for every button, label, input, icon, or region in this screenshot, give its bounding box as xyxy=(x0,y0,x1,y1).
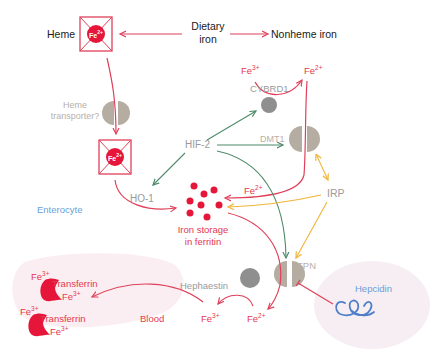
hephaestin-protein xyxy=(240,268,260,288)
fe2-bottom-label: Fe2+ xyxy=(247,313,266,324)
arrow-irp-to-fpn xyxy=(296,202,327,258)
heme-iron-label-inner: Fe2+ xyxy=(108,153,122,162)
transferrin1-fe3-a: Fe3+ xyxy=(31,271,50,282)
heme-label: Heme xyxy=(47,29,75,40)
fe3-top-label: Fe3+ xyxy=(241,65,260,76)
arrow-hif2-to-ho1 xyxy=(153,153,185,185)
fe2-top-label: Fe2+ xyxy=(304,65,323,76)
transferrin2-fe3-a: Fe3+ xyxy=(20,306,39,317)
transferrin2-fe3-b: Fe3+ xyxy=(50,326,69,337)
heme-transporter-label: Hemetransporter? xyxy=(44,101,106,121)
ho1-label: HO-1 xyxy=(130,194,154,204)
transferrin1-fe3-b: Fe3+ xyxy=(62,291,81,302)
iron-storage-label: Iron storagein ferritin xyxy=(173,225,233,246)
nonheme-iron-label: Nonheme iron xyxy=(271,29,337,40)
arrow-hif2-to-cybrd1 xyxy=(207,111,256,140)
hephaestin-label: Hephaestin xyxy=(180,281,228,291)
blood-label: Blood xyxy=(140,314,164,324)
cybrd1-protein xyxy=(261,97,277,113)
dmt1-transporter xyxy=(289,126,320,152)
transferrin2-label: Transferrin xyxy=(40,314,86,324)
arrow-fe2-to-fe3-oxidation xyxy=(218,295,253,306)
transferrin1-label: Transferrin xyxy=(52,279,98,289)
arrow-irp-dmt1 xyxy=(316,154,328,180)
hepcidin-label: Hepcidin xyxy=(355,284,392,294)
dmt1-label: DMT1 xyxy=(260,135,285,144)
heme-iron-label-top: Fe2+ xyxy=(89,30,103,39)
hif2-label: HIF-2 xyxy=(185,140,210,150)
iron-absorption-diagram: Fe2+ Fe2+ Heme Dietaryiron Nonheme iron … xyxy=(0,0,441,358)
ferritin-iron-dots xyxy=(187,183,223,221)
fe3-bottom-label: Fe3+ xyxy=(201,313,220,324)
diagram-graphics xyxy=(0,0,441,358)
fe2-mid-label: Fe2+ xyxy=(244,185,263,196)
irp-label: IRP xyxy=(327,188,345,199)
enterocyte-label: Enterocyte xyxy=(37,205,82,215)
dietary-iron-label: Dietaryiron xyxy=(188,21,228,44)
fpn-label: FPN xyxy=(297,261,316,271)
arrow-ferritin-to-fpn xyxy=(228,213,281,309)
cybrd1-label: CYBRD1 xyxy=(250,84,289,94)
